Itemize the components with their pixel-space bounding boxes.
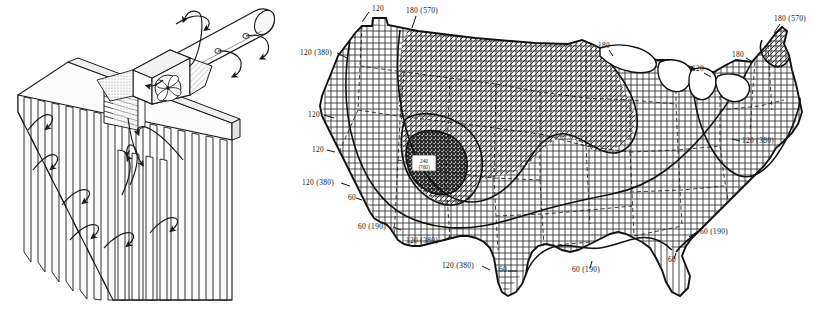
- figure-sheet: 240 (760) 120 180 (570) 120 (380) 120 12…: [0, 0, 819, 318]
- map-label: 120 (380): [302, 178, 350, 187]
- leader-line: [482, 266, 490, 270]
- isoline-label: 180: [732, 50, 744, 59]
- isoline-label: 60 (190): [572, 265, 600, 274]
- isoline-label: 120 (380): [742, 136, 774, 145]
- leader-line: [327, 150, 335, 152]
- map-label: 60: [348, 193, 362, 202]
- isoline-label: 180 (570): [774, 14, 806, 23]
- isoline-label: 180: [598, 41, 610, 50]
- callout-line-1: 240: [420, 158, 428, 164]
- isoline-label: 120 (380): [302, 178, 334, 187]
- illustration-canvas: [0, 0, 300, 318]
- fan-blades: [155, 75, 181, 101]
- isoline-label: 120: [312, 145, 324, 154]
- isoline-label: 120 (380): [406, 236, 438, 245]
- isoline-label: 120: [308, 110, 320, 119]
- map-canvas: 240 (760) 120 180 (570) 120 (380) 120 12…: [300, 0, 819, 318]
- isoline-label: 60: [668, 255, 676, 264]
- leader-line: [356, 198, 362, 200]
- isoline-label: 120 (380): [442, 261, 474, 270]
- duct-fan-wall-illustration: [0, 0, 300, 318]
- isoline-label: 180 (570): [406, 6, 438, 15]
- leader-line: [341, 183, 350, 186]
- isoline-label: 60: [499, 265, 507, 274]
- leader-line: [412, 16, 416, 28]
- map-label: 180 (570): [406, 6, 438, 28]
- isoline-label: 60: [348, 193, 356, 202]
- peak-value-callout: 240 (760): [412, 155, 436, 171]
- isoline-label: 60 (190): [358, 222, 386, 231]
- isoline-label: 120 (380): [300, 48, 332, 57]
- isoline-label: 120: [692, 64, 704, 73]
- contiguous-us-isoline-map: 240 (760) 120 180 (570) 120 (380) 120 12…: [300, 0, 819, 318]
- map-label: 120: [312, 145, 335, 154]
- map-label: 60 (190): [572, 261, 600, 274]
- leader-line: [362, 12, 369, 22]
- isoline-label: 120: [372, 4, 384, 13]
- map-label: 60: [668, 253, 676, 264]
- callout-line-2: (760): [418, 164, 430, 171]
- map-label: 120 (380): [442, 261, 490, 270]
- isoline-label: 60 (190): [700, 227, 728, 236]
